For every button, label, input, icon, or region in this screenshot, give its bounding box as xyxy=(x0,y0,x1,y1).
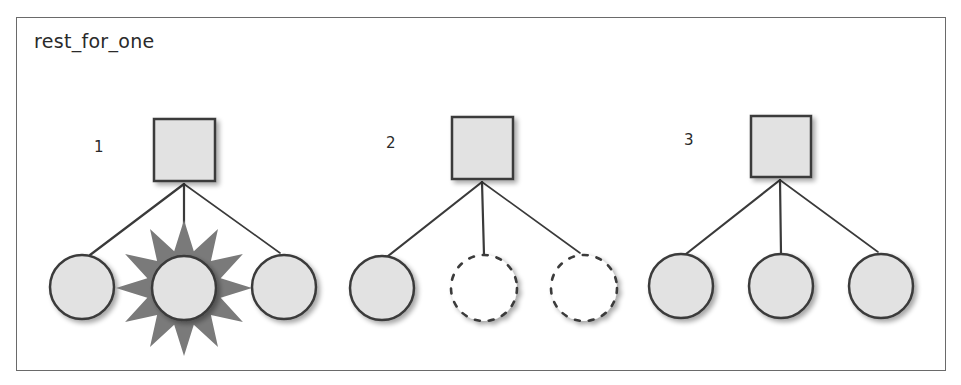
link-line xyxy=(780,180,781,254)
crashed-worker-node xyxy=(152,256,216,320)
supervision-tree-diagram xyxy=(0,0,961,385)
link-line xyxy=(90,184,184,255)
link-line xyxy=(780,180,878,252)
worker-node xyxy=(749,254,813,318)
terminated-worker-node xyxy=(451,255,517,321)
link-line xyxy=(184,184,280,253)
link-line xyxy=(482,182,580,253)
link-line xyxy=(686,180,780,254)
link-line xyxy=(482,182,484,255)
step-2-group xyxy=(350,117,617,321)
link-line xyxy=(388,182,482,256)
supervisor-node xyxy=(751,116,811,177)
worker-node xyxy=(252,255,316,319)
worker-node xyxy=(849,254,913,318)
worker-node xyxy=(350,256,414,320)
worker-node xyxy=(50,255,114,319)
supervisor-node xyxy=(452,117,513,179)
supervisor-node xyxy=(154,119,215,181)
step-1-group xyxy=(50,119,316,356)
terminated-worker-node xyxy=(551,255,617,321)
worker-node xyxy=(649,254,713,318)
step-3-group xyxy=(649,116,913,318)
